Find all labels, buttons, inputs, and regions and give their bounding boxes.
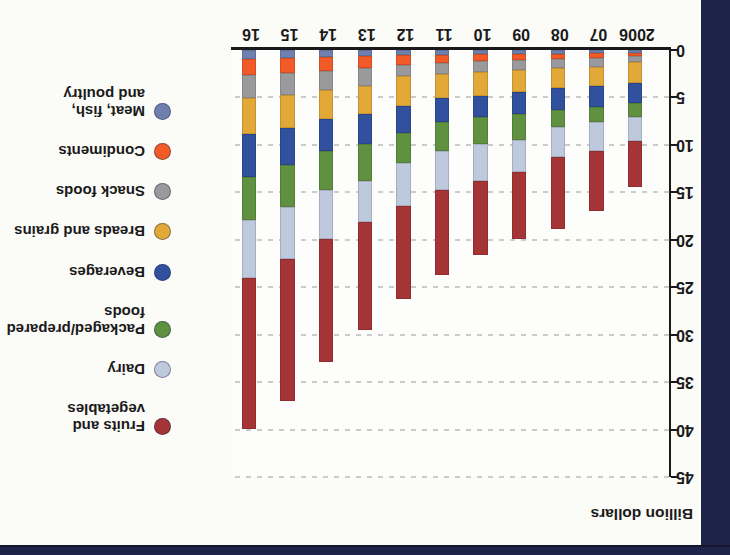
bar-segment-beverages-07 [589, 86, 604, 107]
bar-segment-breads-and-grains-09 [512, 70, 527, 92]
x-axis-label-09: 09 [512, 25, 530, 43]
bar-segment-fruits-and-vegetables-13 [358, 222, 373, 330]
bar-08 [551, 50, 566, 229]
bar-segment-packaged-prepared-foods-10 [473, 117, 488, 144]
legend-item-breads-and-grains: Breads and grains [1, 223, 171, 240]
bar-segment-fruits-and-vegetables-10 [473, 181, 488, 255]
y-axis-title: Billion dollars [591, 505, 693, 523]
bar-segment-snack-foods-11 [435, 63, 450, 73]
legend-label-breads-and-grains: Breads and grains [14, 223, 145, 240]
bar-segment-meat-fish-and-poultry-11 [435, 50, 450, 55]
bar-09 [512, 50, 527, 239]
bar-segment-fruits-and-vegetables-15 [280, 259, 295, 401]
bar-segment-dairy-09 [512, 140, 527, 172]
condiments-swatch [154, 143, 171, 160]
breads-and-grains-swatch [154, 223, 171, 240]
x-axis-label-14: 14 [319, 25, 337, 43]
bar-segment-fruits-and-vegetables-07 [589, 151, 604, 212]
bar-segment-snack-foods-14 [319, 71, 334, 90]
bar-segment-meat-fish-and-poultry-14 [319, 50, 334, 57]
bar-segment-meat-fish-and-poultry-10 [473, 50, 488, 54]
bar-segment-dairy-14 [319, 190, 334, 238]
x-axis-label-08: 08 [551, 25, 569, 43]
y-axis-label-20: 20 [676, 230, 701, 250]
legend-label-dairy: Dairy [107, 361, 145, 378]
bar-segment-snack-foods-15 [280, 73, 295, 95]
x-axis-label-2006: 2006 [619, 25, 655, 43]
bar-2006 [628, 50, 643, 187]
bar-segment-breads-and-grains-16 [242, 98, 257, 135]
y-axis-label-45: 45 [676, 467, 701, 487]
bar-16 [242, 50, 257, 429]
bar-segment-dairy-15 [280, 207, 295, 259]
bar-segment-packaged-prepared-foods-13 [358, 144, 373, 181]
snack-foods-swatch [154, 183, 171, 200]
bar-12 [396, 50, 411, 299]
rotated-chart-sheet: Billion dollars 051015202530354045 20060… [0, 0, 701, 545]
y-axis-tick-0 [671, 49, 678, 51]
gridline-20 [231, 239, 669, 241]
y-axis-tick-25 [671, 286, 678, 288]
bar-segment-fruits-and-vegetables-08 [551, 157, 566, 229]
legend-item-beverages: Beverages [1, 263, 171, 280]
bar-segment-breads-and-grains-13 [358, 86, 373, 114]
y-axis-label-5: 5 [676, 87, 701, 107]
bar-segment-beverages-13 [358, 114, 373, 144]
bar-segment-condiments-16 [242, 59, 257, 76]
bar-segment-condiments-07 [589, 53, 604, 57]
y-axis-label-15: 15 [676, 182, 701, 202]
bar-segment-breads-and-grains-14 [319, 90, 334, 119]
bar-segment-meat-fish-and-poultry-16 [242, 50, 257, 59]
bar-segment-meat-fish-and-poultry-08 [551, 50, 566, 54]
legend-item-snack-foods: Snack foods [1, 183, 171, 200]
bar-segment-dairy-13 [358, 181, 373, 222]
plot-area [231, 47, 671, 477]
bar-segment-packaged-prepared-foods-07 [589, 107, 604, 122]
bar-segment-breads-and-grains-11 [435, 74, 450, 99]
bar-segment-fruits-and-vegetables-2006 [628, 141, 643, 187]
bar-segment-beverages-15 [280, 128, 295, 165]
bar-segment-fruits-and-vegetables-16 [242, 278, 257, 430]
bar-segment-packaged-prepared-foods-15 [280, 165, 295, 207]
legend-item-condiments: Condiments [1, 143, 171, 160]
bar-segment-meat-fish-and-poultry-09 [512, 50, 527, 54]
bar-segment-snack-foods-13 [358, 68, 373, 86]
fruits-and-vegetables-swatch [154, 418, 171, 435]
bar-segment-packaged-prepared-foods-12 [396, 133, 411, 163]
y-axis-tick-40 [671, 429, 678, 431]
bar-segment-snack-foods-09 [512, 60, 527, 69]
bar-segment-beverages-11 [435, 98, 450, 122]
y-axis-tick-10 [671, 144, 678, 146]
bar-segment-snack-foods-07 [589, 58, 604, 67]
gridline-35 [231, 381, 669, 383]
legend-label-beverages: Beverages [69, 263, 145, 280]
bar-segment-condiments-10 [473, 54, 488, 62]
bar-segment-packaged-prepared-foods-11 [435, 122, 450, 150]
bar-15 [280, 50, 295, 401]
y-axis-label-30: 30 [676, 325, 701, 345]
bar-segment-condiments-2006 [628, 53, 643, 56]
bar-segment-dairy-16 [242, 220, 257, 278]
gridline-25 [231, 286, 669, 288]
x-axis-label-12: 12 [397, 25, 415, 43]
bar-segment-fruits-and-vegetables-14 [319, 239, 334, 362]
bar-segment-condiments-15 [280, 58, 295, 73]
bar-segment-packaged-prepared-foods-14 [319, 151, 334, 190]
bar-segment-beverages-16 [242, 134, 257, 177]
bar-segment-dairy-10 [473, 144, 488, 181]
x-axis-label-15: 15 [281, 25, 299, 43]
y-axis-label-25: 25 [676, 277, 701, 297]
x-axis-label-07: 07 [590, 25, 608, 43]
bar-segment-snack-foods-12 [396, 65, 411, 76]
photographed-chart-page: Billion dollars 051015202530354045 20060… [0, 0, 730, 555]
legend-item-dairy: Dairy [1, 361, 171, 378]
bar-segment-dairy-12 [396, 163, 411, 207]
bar-segment-condiments-09 [512, 54, 527, 61]
bar-segment-beverages-10 [473, 96, 488, 118]
bar-segment-fruits-and-vegetables-12 [396, 207, 411, 299]
bar-10 [473, 50, 488, 255]
bar-14 [319, 50, 334, 362]
bar-segment-breads-and-grains-07 [589, 67, 604, 86]
bar-segment-beverages-12 [396, 106, 411, 133]
bar-segment-snack-foods-08 [551, 59, 566, 68]
